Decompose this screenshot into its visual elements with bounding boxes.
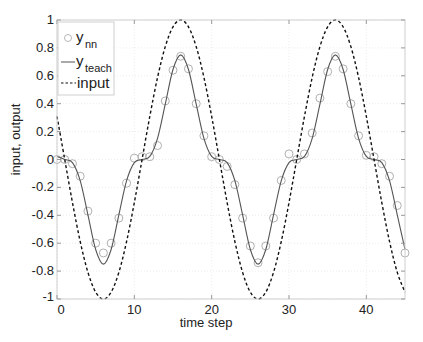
y-tick-label: 0.4 <box>36 96 54 111</box>
legend-sub-yteach: teach <box>85 62 112 74</box>
y-tick-label: 0.2 <box>36 124 54 139</box>
data-point-circle <box>285 150 293 158</box>
legend-label-ynn: y <box>76 28 84 45</box>
data-point-circle <box>331 52 339 60</box>
data-point-circle <box>177 52 185 60</box>
y-tick-label: 0.8 <box>36 40 54 55</box>
data-point-circle <box>316 94 324 102</box>
y-tick-label: -0.8 <box>32 263 54 278</box>
legend-sub-ynn: nn <box>85 38 97 50</box>
y-tick-label: -0.2 <box>32 179 54 194</box>
data-point-circle <box>308 129 316 137</box>
x-tick-label: 0 <box>57 302 64 317</box>
y-tick-label: -1 <box>42 289 54 304</box>
x-tick-label: 10 <box>127 302 141 317</box>
legend-label-input: input <box>77 74 110 91</box>
y-tick-label: -0.4 <box>32 207 54 222</box>
x-axis-label: time step <box>180 315 233 330</box>
x-tick-label: 30 <box>282 302 296 317</box>
x-tick-label: 40 <box>359 302 373 317</box>
y-axis-label: input, output <box>8 103 23 175</box>
y-tick-label: 0.6 <box>36 68 54 83</box>
data-point-circle <box>99 249 107 257</box>
legend-label-yteach: y <box>76 52 84 69</box>
y-tick-label: 0 <box>47 152 54 167</box>
y-tick-label: 1 <box>47 12 54 27</box>
y-tick-labels: -1-0.8-0.6-0.4-0.200.20.40.60.81 <box>32 12 54 304</box>
chart: 010203040 -1-0.8-0.6-0.4-0.200.20.40.60.… <box>0 0 423 342</box>
data-point-circle <box>254 259 262 267</box>
y-tick-label: -0.6 <box>32 235 54 250</box>
legend: y nn y teach input <box>58 22 114 95</box>
